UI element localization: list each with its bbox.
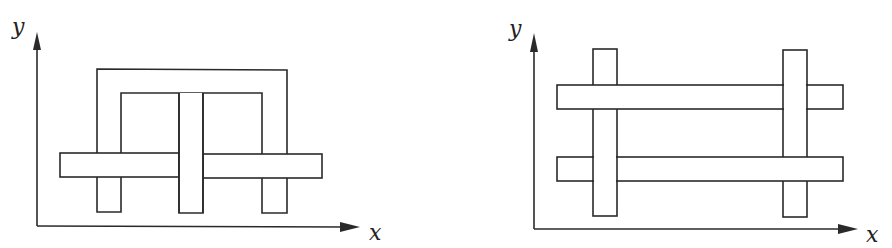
right-x-arrow-icon: [838, 224, 858, 234]
right-x-label: x: [866, 222, 879, 247]
stem-mask: [180, 150, 202, 181]
right-vertical-bar: [783, 50, 807, 217]
left-y-arrow-icon: [33, 32, 41, 50]
horizontal-bar-left: [60, 153, 179, 177]
left-vertical-bar: [593, 49, 617, 216]
right-figure: y x: [508, 16, 879, 247]
right-y-label: y: [508, 16, 522, 41]
left-x-axis: [37, 226, 346, 227]
horizontal-bar-right: [203, 154, 322, 178]
left-vertical-over-bottom-mask: [594, 156, 616, 182]
left-x-arrow-icon: [340, 222, 360, 232]
right-axes: y x: [508, 16, 879, 247]
diagram-canvas: y x y x: [0, 0, 892, 248]
left-x-label: x: [369, 220, 382, 245]
right-y-arrow-icon: [530, 33, 538, 52]
left-figure: y x: [11, 14, 382, 245]
right-vertical-over-top-mask: [784, 84, 806, 110]
left-y-label: y: [11, 14, 25, 39]
